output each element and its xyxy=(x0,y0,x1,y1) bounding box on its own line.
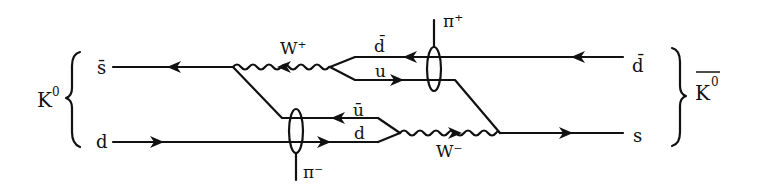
w-minus-propagator xyxy=(400,131,500,136)
left-bottom-quark-label: d xyxy=(96,131,108,152)
mid-top-upper-label: d̄ xyxy=(374,34,385,56)
mid-top-lower-label: u xyxy=(375,61,386,81)
d-fork-line xyxy=(378,133,400,142)
pi-minus-label: π⁻ xyxy=(303,162,323,182)
right-brace xyxy=(672,48,686,146)
pi-plus-label: π⁺ xyxy=(443,11,463,31)
right-bottom-quark-label: s xyxy=(633,125,642,146)
w-minus-label: W⁻ xyxy=(436,141,462,161)
kbar0-label: K xyxy=(695,81,711,105)
arrow-wminus-icon xyxy=(448,127,462,139)
k0-superscript: 0 xyxy=(52,85,60,99)
pi-minus-ellipse xyxy=(289,109,303,153)
left-top-quark-label: s̄ xyxy=(97,57,106,78)
mid-bottom-upper-label: ū xyxy=(353,100,364,120)
mid-bottom-lower-label: d xyxy=(354,123,365,143)
right-top-quark-label: d̄ xyxy=(632,53,644,76)
left-brace xyxy=(66,52,80,147)
w-plus-label: W⁺ xyxy=(280,38,306,58)
feynman-diagram: K 0 s̄ d W⁺ d̄ u π⁺ ū d W⁻ π⁻ d̄ s K 0 xyxy=(0,0,759,195)
kbar0-superscript: 0 xyxy=(711,75,719,89)
pi-plus-ellipse xyxy=(427,47,441,91)
k0-label: K xyxy=(37,88,53,112)
